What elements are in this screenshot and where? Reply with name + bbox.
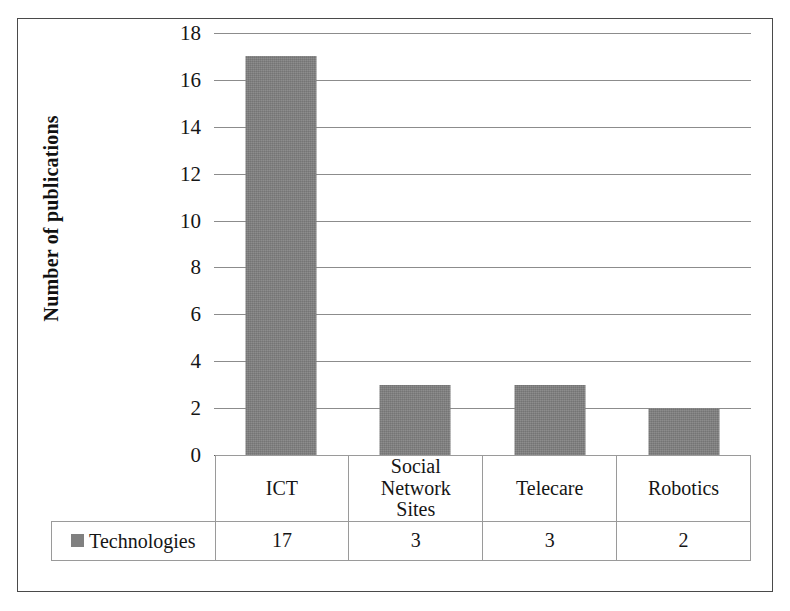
table-category-line: Sites [349,499,482,521]
table-category-line: Telecare [483,478,616,500]
bar-ict[interactable] [246,56,317,455]
bar-slot-1 [348,33,482,455]
bar-telecare[interactable] [514,385,585,455]
bar-social-network-sites[interactable] [380,385,451,455]
y-tick-label-12: 12 [168,163,214,184]
table-category-line: Robotics [617,478,750,500]
table-category-cell-2: Telecare [483,456,617,522]
table-category-line: ICT [216,478,349,500]
table-category-line: Social [349,456,482,478]
table-category-line: Network [349,478,482,500]
plot-area: 024681012141618 [214,33,751,455]
y-tick-label-8: 8 [168,257,214,278]
bar-slot-2 [483,33,617,455]
table-category-cell-3: Robotics [617,456,751,522]
bars-layer [214,33,751,455]
chart-data-table: ICTSocialNetworkSitesTelecareRobotics Te… [51,455,751,561]
y-tick-label-2: 2 [168,398,214,419]
bar-slot-3 [617,33,751,455]
y-tick-label-18: 18 [168,23,214,44]
table-corner-cell [52,456,216,522]
legend-swatch-icon [71,534,84,547]
y-tick-label-6: 6 [168,304,214,325]
table-row-categories: ICTSocialNetworkSitesTelecareRobotics [52,456,751,522]
y-tick-label-14: 14 [168,116,214,137]
y-tick-label-4: 4 [168,351,214,372]
table-category-cell-0: ICT [215,456,349,522]
bar-slot-0 [214,33,348,455]
legend-entry-technologies[interactable]: Technologies [52,521,216,560]
table-value-cell-3: 2 [617,521,751,560]
table-value-cell-0: 17 [215,521,349,560]
legend-label: Technologies [89,530,195,553]
figure-frame: Number of publications 024681012141618 I… [17,18,773,592]
data-table: ICTSocialNetworkSitesTelecareRobotics Te… [51,455,751,561]
y-axis-title: Number of publications [40,132,63,322]
bar-robotics[interactable] [648,408,719,455]
y-tick-label-16: 16 [168,69,214,90]
y-tick-label-10: 10 [168,210,214,231]
table-value-cell-2: 3 [483,521,617,560]
table-category-cell-1: SocialNetworkSites [349,456,483,522]
table-row-values: Technologies 17332 [52,521,751,560]
table-value-cell-1: 3 [349,521,483,560]
